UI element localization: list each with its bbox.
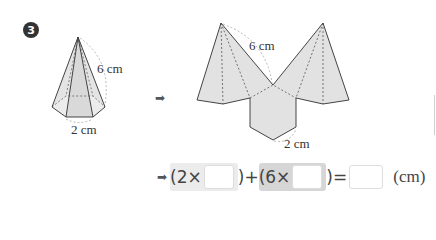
term1-open: (2× [170, 167, 202, 187]
right-arrow-icon: ➡ [155, 91, 165, 105]
equation: ➡ (2× )+ (6× )= (cm) [157, 163, 425, 191]
term2-open: (6× [259, 167, 291, 187]
pyramid-base-label: 2 cm [71, 122, 97, 138]
blank-input-2[interactable] [292, 165, 322, 189]
pyramid-slant-label: 6 cm [97, 61, 123, 77]
blank-input-1[interactable] [204, 165, 234, 189]
hexagonal-pyramid-figure [52, 37, 106, 123]
base-perimeter-term: (2× [170, 163, 238, 191]
right-arrow-icon: ➡ [157, 170, 167, 184]
answer-input[interactable] [349, 165, 383, 189]
term2-close-equals: )= [326, 167, 347, 187]
net-base-label: 2 cm [284, 136, 310, 152]
unit-label: (cm) [393, 167, 425, 187]
divider-line [434, 95, 435, 135]
term1-close-plus: )+ [238, 167, 259, 187]
net-slant-label: 6 cm [249, 38, 275, 54]
slant-edges-term: (6× [259, 163, 327, 191]
